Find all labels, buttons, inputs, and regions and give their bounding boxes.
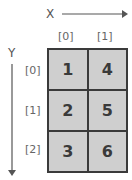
cell-1-0: 2: [49, 91, 87, 130]
cell-2-0: 3: [49, 132, 87, 171]
cell-0-1: 4: [89, 50, 127, 89]
x-axis-label: X: [46, 7, 54, 21]
row-index-2: [2]: [25, 143, 41, 156]
column-index-1: [1]: [97, 30, 113, 43]
y-axis-arrow-icon: [7, 62, 17, 180]
cell-2-1: 6: [89, 132, 127, 171]
row-index-0: [0]: [25, 64, 41, 77]
y-axis-label: Y: [8, 46, 15, 60]
cell-1-1: 5: [89, 91, 127, 130]
array-grid: 1 4 2 5 3 6: [47, 48, 128, 173]
row-index-1: [1]: [25, 104, 41, 117]
x-axis-arrow-icon: [60, 9, 130, 19]
column-index-0: [0]: [58, 30, 74, 43]
cell-0-0: 1: [49, 50, 87, 89]
